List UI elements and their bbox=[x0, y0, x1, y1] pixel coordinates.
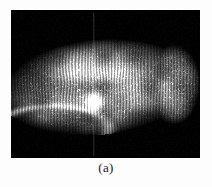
figure-panel: (a) bbox=[0, 0, 212, 187]
micrograph-canvas bbox=[11, 10, 200, 158]
micrograph-image bbox=[11, 10, 200, 158]
panel-caption: (a) bbox=[0, 160, 212, 176]
